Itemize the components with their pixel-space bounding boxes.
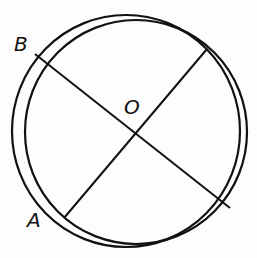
- geometry-diagram: B O A: [0, 0, 257, 258]
- label-B: B: [14, 32, 28, 56]
- label-A: A: [25, 208, 41, 232]
- label-O: O: [124, 95, 140, 119]
- diameter-through-A: [64, 49, 207, 218]
- diameter-through-B: [35, 54, 230, 208]
